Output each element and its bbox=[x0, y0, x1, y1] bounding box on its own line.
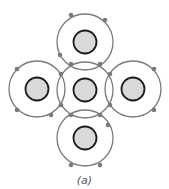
electron-dot bbox=[69, 62, 74, 67]
electron-dot bbox=[59, 72, 64, 77]
electron-dot bbox=[69, 13, 74, 18]
electron-dot bbox=[98, 113, 103, 118]
figure-caption: (a) bbox=[0, 174, 169, 187]
electron-dot bbox=[15, 67, 20, 72]
electron-dot bbox=[58, 53, 63, 58]
electron-dot bbox=[69, 113, 74, 118]
electron-dot bbox=[152, 108, 157, 113]
electron-dot bbox=[15, 108, 20, 113]
electron-dot bbox=[103, 18, 108, 23]
nucleus-center bbox=[74, 79, 97, 102]
covalent-bond-diagram bbox=[0, 0, 169, 189]
electron-dot bbox=[108, 72, 113, 77]
electron-dot bbox=[98, 62, 103, 67]
nucleus-bottom bbox=[74, 127, 97, 150]
electron-dot bbox=[98, 163, 103, 168]
nucleus-left bbox=[26, 78, 49, 101]
electron-dot bbox=[69, 163, 74, 168]
electron-dot bbox=[106, 123, 111, 128]
electron-dot bbox=[152, 67, 157, 72]
nucleus-right bbox=[122, 78, 145, 101]
electron-dot bbox=[59, 103, 64, 108]
nucleus-top bbox=[74, 31, 97, 54]
electron-dot bbox=[49, 113, 54, 118]
electron-dot bbox=[108, 103, 113, 108]
